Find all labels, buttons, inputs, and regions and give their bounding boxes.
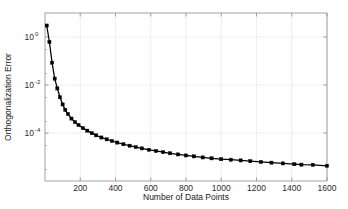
y-axis-label: Orthogonalization Error [3, 53, 13, 141]
x-axis-label: Number of Data Points [143, 192, 229, 202]
x-tick-label: 1200 [247, 183, 266, 193]
svg-text:-4: -4 [35, 127, 41, 133]
x-tick-label: 1600 [318, 183, 337, 193]
svg-text:10: 10 [25, 32, 35, 42]
x-tick-label: 400 [108, 183, 122, 193]
svg-text:10: 10 [25, 80, 35, 90]
svg-text:-2: -2 [35, 79, 41, 85]
x-tick-label: 1400 [282, 183, 301, 193]
figure-canvas: 2004006008001000120014001600 10010-210-4… [0, 0, 348, 209]
x-tick-label: 200 [73, 183, 87, 193]
orthogonalization-error-chart: 2004006008001000120014001600 10010-210-4… [0, 0, 348, 209]
svg-text:10: 10 [25, 128, 35, 138]
